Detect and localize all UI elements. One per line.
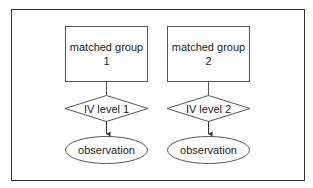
iv-level-1-label: IV level 1 [84, 103, 129, 115]
matched-group-2-box [168, 27, 250, 82]
matched-group-1-box [66, 27, 148, 82]
matched-group-2-number: 2 [205, 55, 211, 67]
matched-group-1-number: 1 [103, 55, 109, 67]
column-2: matched group 2 IV level 2 observation [167, 27, 250, 164]
observation-2-label: observation [180, 144, 237, 156]
column-1: matched group 1 IV level 1 observation [65, 27, 148, 164]
flow-diagram: matched group 1 IV level 1 observation m… [0, 0, 313, 188]
observation-1-label: observation [78, 144, 135, 156]
iv-level-2-label: IV level 2 [186, 103, 231, 115]
matched-group-2-label: matched group [172, 41, 245, 53]
matched-group-1-label: matched group [70, 41, 143, 53]
